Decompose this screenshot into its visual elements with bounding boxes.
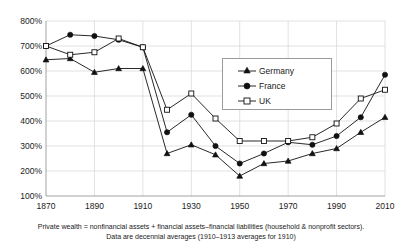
svg-text:1990: 1990 xyxy=(327,201,346,211)
y-axis-tick-labels: 100%200%300%400%500%600%700%800% xyxy=(20,16,42,201)
legend-label-uk: UK xyxy=(259,95,271,107)
legend-item-france[interactable]: France xyxy=(237,78,331,93)
chart-footnotes: Private wealth = nonfinancial assets + f… xyxy=(0,222,402,241)
svg-text:1870: 1870 xyxy=(37,201,56,211)
x-axis-tick-labels: 18701890191019301950197019902010 xyxy=(37,201,395,211)
chart-legend: Germany France UK xyxy=(222,58,332,110)
chart-container: 100%200%300%400%500%600%700%800% 1870189… xyxy=(0,0,402,247)
svg-text:300%: 300% xyxy=(20,141,42,151)
footnote-line-1: Private wealth = nonfinancial assets + f… xyxy=(0,222,402,232)
svg-text:1950: 1950 xyxy=(230,201,249,211)
data-series-group xyxy=(43,32,388,178)
svg-text:1890: 1890 xyxy=(85,201,104,211)
svg-text:700%: 700% xyxy=(20,41,42,51)
legend-label-france: France xyxy=(259,80,285,92)
footnote-line-2: Data are decennial averages (1910–1913 a… xyxy=(0,232,402,242)
gridlines-group xyxy=(46,21,385,196)
axis-lines xyxy=(46,21,385,196)
triangle-filled-marker-icon xyxy=(237,65,257,77)
svg-text:1930: 1930 xyxy=(182,201,201,211)
circle-filled-marker-icon xyxy=(237,80,257,92)
line-chart-plot: 100%200%300%400%500%600%700%800% 1870189… xyxy=(0,0,402,247)
legend-item-uk[interactable]: UK xyxy=(237,93,331,108)
svg-text:500%: 500% xyxy=(20,91,42,101)
svg-text:2010: 2010 xyxy=(376,201,395,211)
svg-text:200%: 200% xyxy=(20,166,42,176)
svg-text:800%: 800% xyxy=(20,16,42,26)
legend-label-germany: Germany xyxy=(259,65,294,77)
svg-text:1910: 1910 xyxy=(133,201,152,211)
svg-text:400%: 400% xyxy=(20,116,42,126)
svg-text:1970: 1970 xyxy=(279,201,298,211)
square-open-marker-icon xyxy=(237,95,257,107)
svg-text:600%: 600% xyxy=(20,66,42,76)
svg-text:100%: 100% xyxy=(20,191,42,201)
legend-item-germany[interactable]: Germany xyxy=(237,63,331,78)
